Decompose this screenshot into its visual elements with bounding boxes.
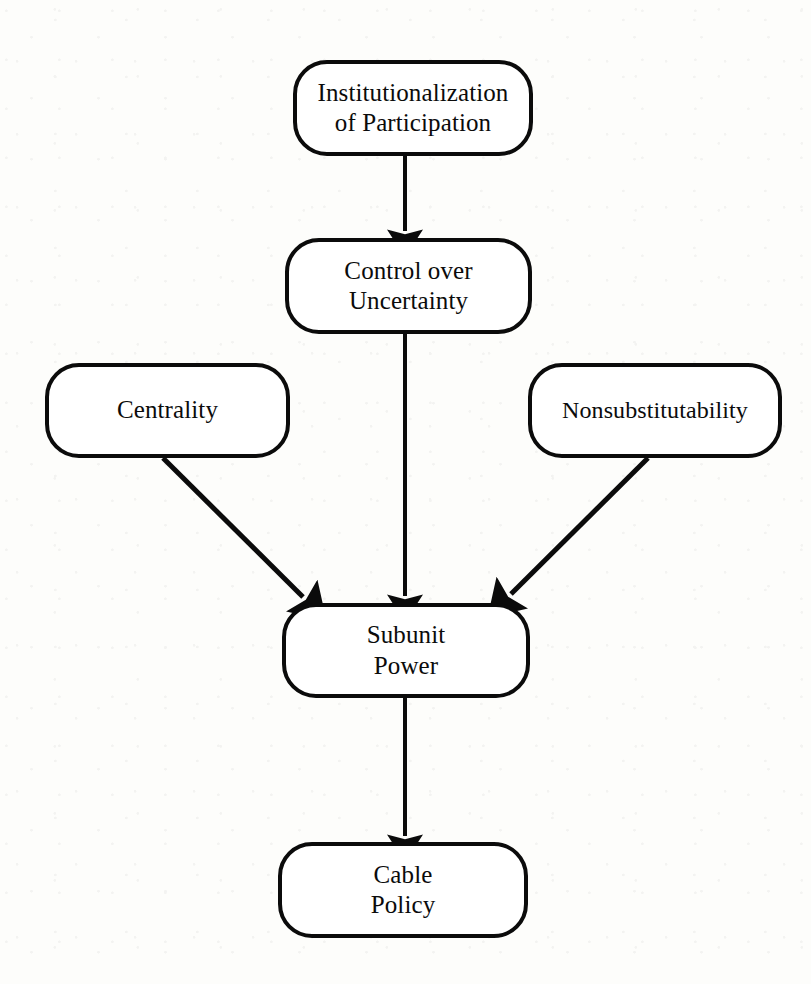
diagram-canvas: Institutionalization of Participation Co… [0, 0, 811, 984]
node-label: Subunit Power [357, 620, 456, 681]
node-subunit-power[interactable]: Subunit Power [282, 603, 530, 698]
node-institutionalization-of-participation[interactable]: Institutionalization of Participation [293, 60, 533, 156]
node-nonsubstitutability[interactable]: Nonsubstitutability [528, 363, 782, 458]
node-label: Centrality [107, 395, 228, 426]
node-control-over-uncertainty[interactable]: Control over Uncertainty [285, 238, 532, 334]
edge-nonsub-to-power [511, 458, 648, 594]
node-label: Nonsubstitutability [552, 396, 758, 425]
edge-centrality-to-power [163, 458, 303, 597]
node-cable-policy[interactable]: Cable Policy [278, 842, 528, 938]
node-centrality[interactable]: Centrality [45, 363, 290, 458]
node-label: Control over Uncertainty [334, 256, 482, 317]
node-label: Cable Policy [361, 860, 446, 921]
node-label: Institutionalization of Participation [308, 78, 519, 139]
